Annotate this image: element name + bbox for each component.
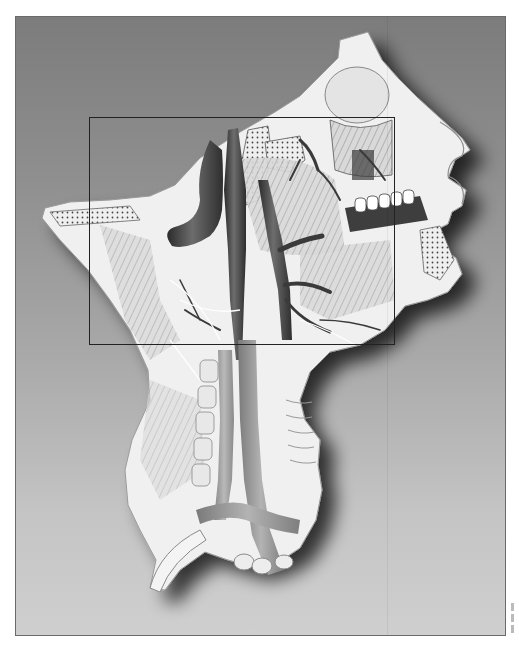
sinus-cavity (352, 150, 374, 180)
anatomical-illustration (0, 0, 519, 657)
scan-artifact-line (387, 17, 388, 635)
edge-marks (511, 600, 517, 640)
eye-orbit (325, 67, 389, 123)
